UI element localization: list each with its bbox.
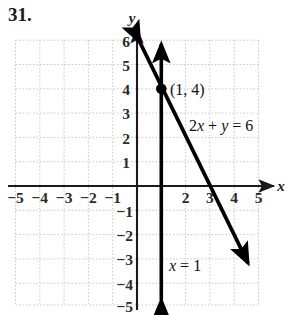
x-tick-4: 4 (230, 189, 238, 206)
eq-coef-2: 2 (189, 117, 197, 134)
y-tick--2: −2 (116, 227, 133, 244)
x-tick-labels: −5 −4 −3 −2 −1 2 3 4 5 (7, 189, 262, 206)
y-tick--5: −5 (116, 298, 133, 315)
point-label-1-4: (1, 4) (170, 81, 205, 99)
y-tick-labels: 6 5 4 3 2 1 −1 −2 −3 −4 −5 (116, 33, 133, 315)
point-marker-1-4 (156, 84, 167, 95)
y-tick-2: 2 (122, 130, 130, 147)
y-tick-4: 4 (122, 81, 130, 98)
x-tick--5: −5 (7, 189, 24, 206)
y-tick--3: −3 (116, 251, 133, 268)
x-axis-label: x (276, 178, 285, 194)
eq-equals-6: = 6 (228, 117, 253, 134)
eqv-equals-1: = 1 (176, 257, 201, 274)
x-tick--4: −4 (32, 189, 49, 206)
x-tick-5: 5 (255, 189, 263, 206)
y-axis-label: y (127, 10, 136, 26)
eq-plus: + (204, 117, 221, 134)
y-tick-1: 1 (122, 154, 130, 171)
y-tick--4: −4 (116, 276, 133, 293)
equation-label-line: 2x + y = 6 (189, 117, 253, 135)
graph-figure: 31. (0, 0, 293, 315)
y-tick--1: −1 (116, 203, 133, 220)
x-tick--3: −3 (56, 189, 73, 206)
coordinate-plane: x y −5 −4 −3 −2 −1 2 3 4 5 6 5 4 3 2 1 −… (0, 0, 293, 315)
x-tick-2: 2 (182, 189, 190, 206)
eqv-var-x: x (168, 257, 176, 274)
line-2x-plus-y-equals-6 (140, 42, 249, 264)
x-tick--2: −2 (80, 189, 97, 206)
y-tick-6: 6 (122, 33, 130, 50)
equation-label-vertical: x = 1 (168, 257, 201, 274)
y-tick-5: 5 (122, 57, 130, 74)
eq-var-x: x (196, 117, 204, 134)
y-tick-3: 3 (122, 105, 130, 122)
